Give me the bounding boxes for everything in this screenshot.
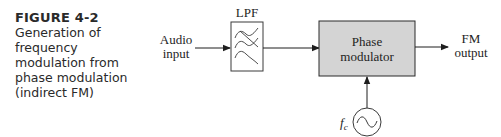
- fm-output-label: FM output: [454, 31, 488, 60]
- phase-modulator-line2: modulator: [340, 49, 394, 64]
- phase-modulator-line1: Phase: [352, 34, 383, 49]
- phase-modulator-block: Phase modulator: [319, 21, 415, 76]
- lpf-label: LPF: [236, 5, 258, 20]
- oscillator-label-subscript: c: [344, 122, 348, 132]
- audio-input-label: Audio input: [160, 32, 193, 61]
- fm-output-line2: output: [454, 45, 488, 60]
- oscillator-label: fc: [340, 115, 348, 132]
- audio-input-line1: Audio: [160, 32, 193, 47]
- lpf-block: [231, 22, 263, 71]
- sine-source-icon: [353, 108, 381, 136]
- fm-output-line1: FM: [462, 31, 481, 46]
- audio-input-line2: input: [163, 46, 190, 61]
- block-diagram: Audio input LPF Phase modulator FM outpu…: [0, 0, 501, 137]
